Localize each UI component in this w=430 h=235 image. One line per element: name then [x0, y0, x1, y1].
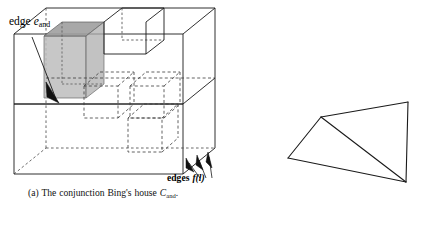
figure-panel-a: edgeeand edgesf(l) (a) The conjunction B…	[0, 0, 225, 235]
clause-gadget-edges	[288, 102, 408, 182]
caption-a-period: .	[176, 187, 178, 198]
open-box-left-top-edge	[104, 8, 122, 22]
hidden-tunnel-1-edge-e	[118, 104, 134, 118]
caption-a-tag: (a)	[28, 187, 39, 198]
hidden-tunnel-2-edge-a	[130, 72, 146, 86]
lower-right-top-edge	[183, 78, 215, 104]
clause-gadget-diagram	[225, 0, 430, 190]
edges-fl-arrowhead-1	[186, 158, 194, 172]
label-edge-e-and-word: edge	[9, 15, 31, 27]
clause-edge-diagonal	[321, 117, 406, 182]
hidden-tunnel-3-edge-e	[162, 138, 178, 152]
label-edges-fl-word: edges	[167, 172, 189, 183]
lower-back-left-edge	[14, 148, 46, 174]
upper-right-top-edge	[183, 8, 215, 34]
caption-a-line: (a) The conjunction Bing's houseCand.	[28, 187, 218, 199]
label-edge-e-and-subscript: and	[39, 20, 50, 29]
clause-edge-u	[321, 102, 408, 117]
lower-chamber	[14, 104, 183, 174]
caption-a-word-2: Bing's	[107, 187, 131, 198]
edges-fl-arrowhead-2	[196, 155, 203, 170]
caption-a-word-0: The	[41, 187, 56, 198]
caption-a-symbol-subscript: and	[166, 192, 175, 199]
clause-edge-e-and	[406, 102, 408, 182]
hidden-tunnel-2-front	[130, 86, 164, 118]
caption-a-word-3: house	[134, 187, 156, 198]
lower-front-face	[14, 104, 183, 174]
and-tunnel-prism	[44, 22, 104, 98]
open-top-box	[104, 8, 164, 54]
label-edge-e-and: edgeeand	[9, 15, 50, 27]
open-box-right-bottom-edge	[146, 40, 164, 54]
figure-root: edgeeand edgesf(l) (a) The conjunction B…	[0, 0, 430, 235]
hidden-tunnel-1-edge-c	[118, 72, 134, 86]
figure-panel-b: u v w eand (b)Representationofa clausecj…	[225, 0, 430, 235]
clause-edge-v	[288, 117, 321, 158]
label-edges-fl-symbol: f(l)	[192, 172, 204, 183]
hidden-tunnel-3-front	[128, 118, 162, 152]
open-box-front-face	[104, 22, 146, 54]
label-edges-fl: edgesf(l)	[167, 172, 205, 183]
hidden-tunnel-2-edge-c	[164, 72, 180, 86]
caption-a-word-1: conjunction	[59, 187, 104, 198]
clause-edge-w	[288, 158, 406, 182]
caption-a: (a) The conjunction Bing's houseCand.	[28, 187, 218, 199]
open-box-right-top-edge	[146, 8, 164, 22]
bings-house-diagram	[0, 0, 225, 190]
